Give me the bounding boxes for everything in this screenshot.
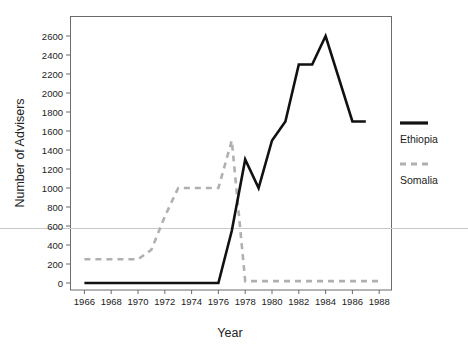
y-tick-label: 2000: [42, 88, 63, 99]
y-tick-label: 1000: [42, 183, 63, 194]
y-tick-label: 800: [47, 202, 63, 213]
y-tick-label: 0: [58, 278, 63, 289]
x-axis-title: Year: [217, 326, 242, 340]
x-tick-label: 1970: [127, 296, 148, 307]
x-tick-label: 1984: [315, 296, 336, 307]
y-tick-label: 1400: [42, 145, 63, 156]
x-tick-label: 1974: [181, 296, 202, 307]
y-tick-label: 2400: [42, 50, 63, 61]
legend-label-somalia: Somalia: [400, 174, 438, 186]
x-tick-label: 1980: [261, 296, 282, 307]
legend-label-ethiopia: Ethiopia: [400, 133, 438, 145]
y-axis-title: Number of Advisers: [13, 98, 27, 207]
x-tick-label: 1966: [74, 296, 95, 307]
y-tick-label: 1200: [42, 164, 63, 175]
y-tick-label: 1800: [42, 107, 63, 118]
x-tick-label: 1978: [235, 296, 256, 307]
x-tick-label: 1976: [208, 296, 229, 307]
y-tick-label: 1600: [42, 126, 63, 137]
y-tick-label: 600: [47, 221, 63, 232]
line-chart-canvas: 0 200 400 600 800 1000: [0, 0, 468, 351]
x-tick-label: 1968: [101, 296, 122, 307]
y-tick-label: 400: [47, 240, 63, 251]
y-tick-label: 2600: [42, 31, 63, 42]
x-tick-label: 1982: [288, 296, 309, 307]
chart-figure: 0 200 400 600 800 1000: [0, 0, 468, 351]
y-tick-label: 2200: [42, 69, 63, 80]
y-tick-label: 200: [47, 259, 63, 270]
x-tick-label: 1988: [369, 296, 390, 307]
x-tick-label: 1986: [342, 296, 363, 307]
x-tick-label: 1972: [154, 296, 175, 307]
